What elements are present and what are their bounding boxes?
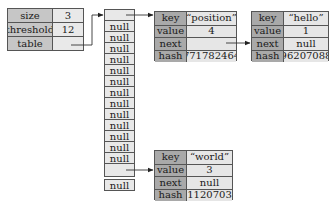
node-row-next: next null (252, 37, 328, 50)
field-label: key (155, 12, 187, 25)
field-value: “world” (187, 151, 232, 164)
field-value: 111207038 (187, 190, 232, 202)
node-row-hash: hash 111207038 (155, 189, 232, 202)
entry-node-world: key “world” value 3 next null hash 11120… (154, 150, 233, 200)
field-label: hash (252, 51, 284, 63)
field-label: table (8, 37, 53, 50)
field-label: next (155, 38, 187, 50)
field-label: next (155, 177, 187, 189)
entry-node-position: key “position” value 4 next hash 7717824… (154, 11, 237, 61)
field-label: next (252, 38, 284, 50)
table-slot-2: null (104, 32, 135, 43)
table-slot-8: null (104, 98, 135, 109)
field-label: threshold (8, 23, 53, 36)
table-slot-15: null (104, 179, 135, 191)
field-value: null (284, 38, 328, 50)
node-row-key: key “world” (155, 151, 232, 164)
field-value: 96207088 (284, 51, 328, 63)
hashmap-object: size 3 threshold 12 table (7, 8, 84, 51)
field-value (53, 37, 83, 50)
field-value: “position” (187, 12, 236, 25)
field-value: 3 (53, 9, 83, 22)
node-row-hash: hash 96207088 (252, 50, 328, 63)
table-slot-0 (104, 9, 135, 21)
node-row-hash: hash 771782464 (155, 50, 236, 63)
field-label: key (155, 151, 187, 164)
table-slot-12: null (104, 142, 135, 153)
node-row-key: key “hello” (252, 12, 328, 25)
map-row-table: table (8, 36, 83, 50)
node-row-value: value 4 (155, 25, 236, 38)
field-value: 3 (187, 165, 232, 177)
table-slot-11: null (104, 131, 135, 142)
field-label: size (8, 9, 53, 22)
field-value (187, 38, 236, 50)
table-slot-4: null (104, 54, 135, 65)
node-row-value: value 3 (155, 164, 232, 177)
table-slot-6: null (104, 76, 135, 87)
entry-node-hello: key “hello” value 1 next null hash 96207… (251, 11, 329, 61)
node-row-key: key “position” (155, 12, 236, 25)
table-slot-9: null (104, 109, 135, 120)
field-label: value (155, 165, 187, 177)
field-value: null (187, 177, 232, 189)
field-label: hash (155, 51, 187, 63)
table-slot-13: null (104, 153, 135, 164)
table-slot-14 (104, 164, 135, 177)
field-value: “hello” (284, 12, 328, 25)
map-row-threshold: threshold 12 (8, 22, 83, 36)
field-label: key (252, 12, 284, 25)
field-value: 12 (53, 23, 83, 36)
map-row-size: size 3 (8, 9, 83, 22)
node-row-value: value 1 (252, 25, 328, 38)
node-row-next: next null (155, 176, 232, 189)
table-slot-10: null (104, 120, 135, 131)
field-value: 1 (284, 26, 328, 38)
field-label: value (155, 26, 187, 38)
table-slot-3: null (104, 43, 135, 54)
table-slot-1: null (104, 21, 135, 32)
field-value: 4 (187, 26, 236, 38)
field-value: 771782464 (187, 51, 236, 63)
node-row-next: next (155, 37, 236, 50)
field-label: value (252, 26, 284, 38)
field-label: hash (155, 190, 187, 202)
table-slot-7: null (104, 87, 135, 98)
table-slot-5: null (104, 65, 135, 76)
